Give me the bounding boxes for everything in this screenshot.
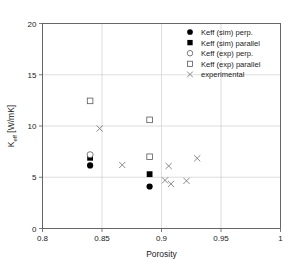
data-point [87, 98, 93, 104]
data-point [147, 183, 153, 189]
legend-label-4: experimental [201, 70, 245, 79]
plot-canvas: 0.80.850.90.95105101520 Keff (sim) perp.… [0, 0, 301, 271]
data-point [194, 155, 200, 161]
data-point [119, 162, 125, 168]
legend-label-1: Keff (sim) parallel [201, 39, 260, 48]
y-tick-label: 0 [32, 225, 37, 234]
y-tick-label: 20 [28, 20, 37, 29]
legend-label-3: Keff (exp) parallel [201, 60, 261, 69]
data-point [168, 181, 174, 187]
legend-label-2: Keff (exp) perp. [201, 49, 253, 58]
x-tick-label: 0.8 [37, 234, 49, 243]
chart-legend: Keff (sim) perp.Keff (sim) parallelKeff … [187, 28, 261, 79]
legend-label-0: Keff (sim) perp. [201, 28, 253, 37]
x-axis-title: Porosity [146, 249, 177, 259]
legend-marker-2 [187, 50, 193, 56]
data-point [162, 177, 168, 183]
data-point [87, 152, 93, 158]
data-points [87, 98, 200, 189]
data-point [166, 163, 172, 169]
series-3 [87, 98, 152, 159]
x-tick-label: 0.85 [94, 234, 110, 243]
data-point [147, 171, 153, 177]
legend-marker-1 [187, 40, 192, 45]
legend-marker-4 [187, 72, 193, 78]
series-2 [87, 152, 93, 158]
x-tick-label: 1 [278, 234, 283, 243]
y-tick-label: 5 [32, 173, 37, 182]
data-point [183, 178, 189, 184]
data-point [147, 154, 153, 160]
x-tick-label: 0.95 [213, 234, 229, 243]
y-tick-label: 10 [28, 122, 37, 131]
x-tick-label: 0.9 [156, 234, 168, 243]
series-1 [87, 155, 152, 177]
series-0 [87, 162, 153, 189]
y-axis-title: Keff [W/mK] [6, 105, 18, 147]
data-point [147, 117, 153, 123]
data-point [87, 162, 93, 168]
legend-marker-0 [187, 29, 193, 35]
legend-marker-3 [187, 61, 192, 66]
scatter-chart: 0.80.850.90.95105101520 Keff (sim) perp.… [0, 0, 301, 271]
y-tick-label: 15 [28, 71, 37, 80]
